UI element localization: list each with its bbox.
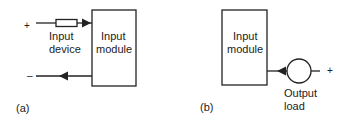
- caption-a: (a): [16, 102, 29, 114]
- input-module-label-a-line2: module: [96, 43, 132, 55]
- output-load-circle: [287, 59, 311, 83]
- arrow-right-icon: [82, 19, 91, 28]
- arrow-left-icon-b: [277, 67, 286, 76]
- plus-terminal-b: +: [327, 65, 333, 77]
- input-device-resistor: [56, 20, 77, 27]
- input-device-label-line1: Input: [49, 30, 73, 42]
- input-module-label-b-line2: module: [227, 43, 263, 55]
- minus-terminal-a: –: [27, 70, 33, 82]
- input-module-label-b-line1: Input: [233, 30, 257, 42]
- input-module-label-a-line1: Input: [101, 30, 125, 42]
- output-load-label-line1: Output: [284, 87, 317, 99]
- output-load-label-line2: load: [284, 100, 305, 112]
- caption-b: (b): [200, 101, 213, 113]
- arrow-left-icon: [59, 72, 68, 81]
- input-device-label-line2: device: [49, 43, 81, 55]
- plus-terminal-a: +: [24, 20, 30, 32]
